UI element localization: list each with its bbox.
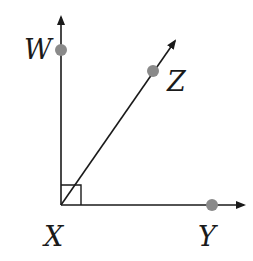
label-z: Z: [166, 66, 187, 97]
point-w: [55, 44, 67, 56]
label-y: Y: [198, 221, 218, 252]
point-z: [147, 65, 159, 77]
angle-diagram: W Z X Y: [0, 0, 253, 261]
label-w: W: [24, 34, 54, 65]
point-y: [206, 199, 218, 211]
label-x: X: [42, 221, 65, 252]
ray-xz: [61, 41, 175, 205]
